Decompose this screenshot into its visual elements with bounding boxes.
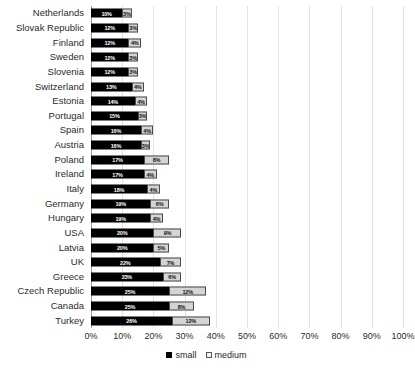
bar-cell: 12%4% <box>91 35 403 50</box>
bar-cell: 17%8% <box>91 152 403 167</box>
x-tick-label: 10% <box>113 330 131 342</box>
bar-cell: 15%3% <box>91 108 403 123</box>
bar-cell: 12%3% <box>91 65 403 80</box>
bar-value-label: 9% <box>164 230 172 236</box>
bar-value-label: 3% <box>129 25 137 31</box>
bar-value-label: 19% <box>115 215 125 221</box>
bar-value-label: 22% <box>120 259 130 265</box>
category-label: Turkey <box>0 316 88 326</box>
category-label: Sweden <box>0 52 88 62</box>
bar-value-label: 16% <box>111 127 121 133</box>
small-swatch-icon <box>166 352 172 358</box>
bar-cell: 26%12% <box>91 313 403 328</box>
bar-segment-small: 15% <box>91 111 138 120</box>
category-label: Italy <box>0 184 88 194</box>
category-label: Latvia <box>0 243 88 253</box>
bar-row: Ireland17%4% <box>0 167 413 182</box>
bar-segment-small: 12% <box>91 38 128 47</box>
bar-value-label: 4% <box>131 40 139 46</box>
bar-segment-small: 25% <box>91 302 169 311</box>
bar-row: Canada25%8% <box>0 299 413 314</box>
bar-cell: 23%6% <box>91 270 403 285</box>
bar-value-label: 20% <box>117 245 127 251</box>
category-label: Slovenia <box>0 67 88 77</box>
bar-value-label: 12% <box>105 54 115 60</box>
category-label: USA <box>0 228 88 238</box>
bar-segment-medium: 4% <box>144 170 156 179</box>
legend-item-medium[interactable]: medium <box>206 350 247 360</box>
bar-stack: 25%12% <box>91 287 206 296</box>
chart-legend: smallmedium <box>0 350 413 360</box>
bar-value-label: 8% <box>153 157 161 163</box>
bar-value-label: 16% <box>111 142 121 148</box>
bar-stack: 16%4% <box>91 126 153 135</box>
bar-value-label: 4% <box>146 171 154 177</box>
bar-stack: 23%6% <box>91 272 181 281</box>
bar-segment-small: 12% <box>91 23 128 32</box>
bar-value-label: 25% <box>125 288 135 294</box>
bar-value-label: 17% <box>112 157 122 163</box>
bar-segment-small: 12% <box>91 53 128 62</box>
bar-value-label: 19% <box>115 201 125 207</box>
bar-cell: 10%3% <box>91 6 403 21</box>
bar-value-label: 20% <box>117 230 127 236</box>
bar-segment-small: 12% <box>91 67 128 76</box>
bar-value-label: 3% <box>129 69 137 75</box>
bar-value-label: 4% <box>134 84 142 90</box>
bar-segment-medium: 8% <box>144 155 169 164</box>
bar-row: Latvia20%5% <box>0 240 413 255</box>
bar-segment-small: 23% <box>91 272 163 281</box>
bar-row: Finland12%4% <box>0 35 413 50</box>
bar-cell: 17%4% <box>91 167 403 182</box>
bar-segment-medium: 5% <box>153 243 169 252</box>
bar-segment-small: 14% <box>91 97 135 106</box>
bar-value-label: 14% <box>108 98 118 104</box>
bar-cell: 16%3% <box>91 138 403 153</box>
bar-segment-medium: 3% <box>141 141 150 150</box>
bar-value-label: 3% <box>142 142 150 148</box>
bar-stack: 19%6% <box>91 199 169 208</box>
bar-segment-medium: 4% <box>141 126 153 135</box>
bar-segment-small: 25% <box>91 287 169 296</box>
bar-segment-medium: 4% <box>147 185 159 194</box>
x-tick-label: 20% <box>144 330 162 342</box>
x-tick-label: 40% <box>207 330 225 342</box>
bar-value-label: 12% <box>105 25 115 31</box>
bar-row: Slovenia12%3% <box>0 65 413 80</box>
bar-segment-medium: 4% <box>150 214 162 223</box>
bar-stack: 19%4% <box>91 214 163 223</box>
bar-value-label: 10% <box>101 10 111 16</box>
category-label: Netherlands <box>0 8 88 18</box>
legend-label: medium <box>215 350 247 360</box>
x-axis: 0%10%20%30%40%50%60%70%80%90%100% <box>91 330 403 344</box>
bar-stack: 22%7% <box>91 258 181 267</box>
bar-cell: 25%12% <box>91 284 403 299</box>
bar-stack: 20%9% <box>91 228 181 237</box>
bar-row: Greece23%6% <box>0 270 413 285</box>
bar-stack: 12%3% <box>91 53 138 62</box>
bar-row: UK22%7% <box>0 255 413 270</box>
bar-stack: 20%5% <box>91 243 169 252</box>
bar-value-label: 23% <box>122 274 132 280</box>
bar-stack: 26%12% <box>91 316 210 325</box>
bar-stack: 10%3% <box>91 9 132 18</box>
bar-value-label: 3% <box>123 10 131 16</box>
bar-row: Switzerland13%4% <box>0 79 413 94</box>
bar-segment-small: 19% <box>91 199 150 208</box>
x-tick-label: 0% <box>84 330 97 342</box>
bar-value-label: 12% <box>105 69 115 75</box>
bar-segment-medium: 4% <box>135 97 147 106</box>
bar-segment-small: 16% <box>91 126 141 135</box>
legend-label: small <box>175 350 196 360</box>
bar-row: Hungary19%4% <box>0 211 413 226</box>
x-tick-label: 50% <box>238 330 256 342</box>
bar-segment-small: 13% <box>91 82 132 91</box>
x-tick-label: 60% <box>269 330 287 342</box>
legend-item-small[interactable]: small <box>166 350 196 360</box>
category-label: Czech Republic <box>0 286 88 296</box>
category-label: UK <box>0 257 88 267</box>
plot-area: Netherlands10%3%Slovak Republic12%3%Finl… <box>0 6 413 328</box>
bar-value-label: 12% <box>183 288 193 294</box>
bar-stack: 17%4% <box>91 170 157 179</box>
medium-swatch-icon <box>206 352 212 358</box>
